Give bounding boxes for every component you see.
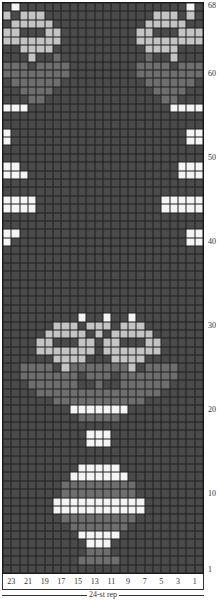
chart-cell [70,154,78,162]
chart-cell [53,422,61,430]
chart-cell [53,548,61,556]
chart-cell [86,137,94,145]
chart-cell [20,238,28,246]
chart-cell [86,514,94,522]
chart-cell [161,70,169,78]
chart-cell [178,389,186,397]
chart-cell [11,355,19,363]
chart-cell [178,238,186,246]
chart-cell [95,363,103,371]
chart-cell [178,506,186,514]
chart-cell [145,539,153,547]
chart-cell [120,288,128,296]
chart-cell [53,439,61,447]
chart-cell [128,196,136,204]
chart-cell [128,187,136,195]
chart-cell [195,498,203,506]
chart-cell [36,263,44,271]
chart-cell [95,464,103,472]
chart-cell [3,313,11,321]
chart-cell [111,430,119,438]
chart-cell [11,313,19,321]
chart-cell [53,514,61,522]
chart-cell [195,447,203,455]
chart-cell [78,3,86,11]
chart-cell [11,120,19,128]
chart-cell [53,238,61,246]
chart-cell [45,280,53,288]
chart-cell [20,213,28,221]
chart-cell [128,338,136,346]
chart-cell [161,389,169,397]
chart-cell [53,179,61,187]
chart-cell [11,296,19,304]
chart-cell [11,548,19,556]
chart-cell [186,514,194,522]
chart-cell [11,137,19,145]
chart-cell [120,539,128,547]
chart-cell [128,112,136,120]
chart-cell [186,481,194,489]
chart-cell [53,464,61,472]
chart-cell [45,53,53,61]
chart-cell [20,380,28,388]
chart-cell [153,246,161,254]
chart-cell [136,78,144,86]
chart-cell [120,20,128,28]
chart-cell [136,514,144,522]
chart-cell [111,514,119,522]
chart-cell [186,179,194,187]
chart-cell [53,355,61,363]
chart-cell [128,464,136,472]
chart-cell [103,280,111,288]
chart-cell [20,263,28,271]
chart-cell [178,414,186,422]
chart-cell [95,305,103,313]
chart-cell [36,28,44,36]
chart-cell [28,548,36,556]
chart-cell [95,322,103,330]
chart-cell [95,506,103,514]
chart-cell [153,145,161,153]
chart-cell [186,62,194,70]
chart-cell [161,556,169,564]
chart-cell [103,489,111,497]
chart-cell [153,213,161,221]
chart-cell [86,439,94,447]
chart-cell [195,112,203,120]
chart-cell [111,565,119,573]
chart-cell [195,137,203,145]
chart-cell [20,565,28,573]
chart-cell [78,556,86,564]
chart-cell [3,347,11,355]
repeat-label-text: 24-st rep [87,590,119,599]
chart-cell [145,372,153,380]
chart-cell [28,489,36,497]
chart-cell [11,162,19,170]
chart-cell [186,137,194,145]
chart-cell [61,489,69,497]
chart-cell [153,338,161,346]
chart-cell [178,548,186,556]
chart-cell [103,397,111,405]
chart-cell [136,196,144,204]
chart-cell [70,53,78,61]
chart-cell [136,221,144,229]
chart-cell [28,112,36,120]
chart-cell [161,53,169,61]
chart-cell [78,120,86,128]
chart-cell [53,296,61,304]
chart-cell [153,238,161,246]
chart-cell [103,154,111,162]
chart-cell [153,498,161,506]
chart-cell [136,62,144,70]
chart-cell [53,162,61,170]
chart-cell [53,37,61,45]
chart-cell [70,322,78,330]
chart-cell [103,11,111,19]
chart-cell [95,171,103,179]
chart-cell [111,3,119,11]
chart-cell [3,28,11,36]
chart-cell [45,45,53,53]
chart-cell [95,238,103,246]
